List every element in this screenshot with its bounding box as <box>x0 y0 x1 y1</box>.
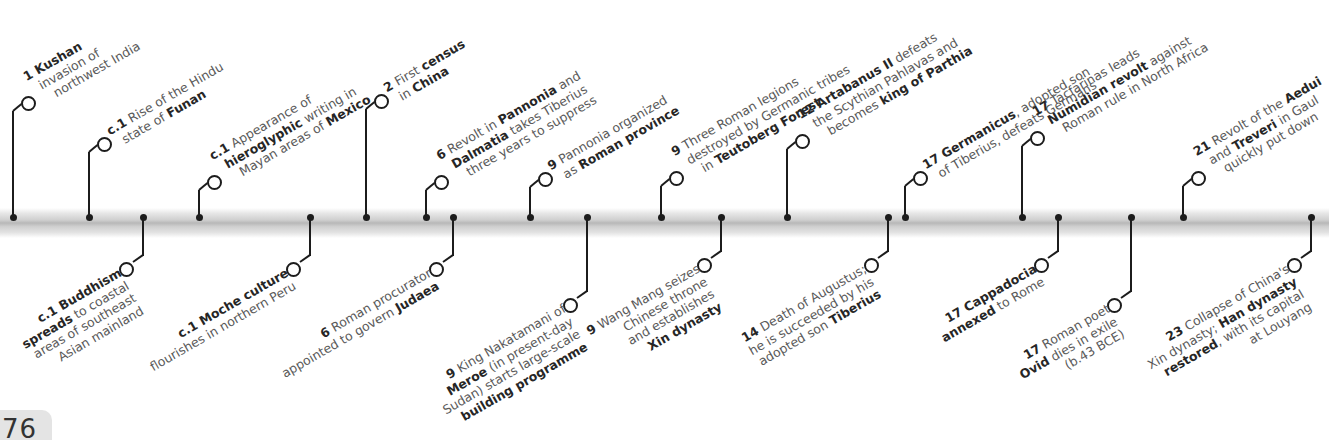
pin-stem <box>1130 217 1132 292</box>
event-label: c.1 Buddhismspreads to coastalareas of s… <box>12 266 146 377</box>
pin-stem <box>142 217 144 256</box>
event-label: 23 Collapse of China'sXin dynasty; Han d… <box>1138 262 1314 397</box>
event-label: 17 Roman poetOvid dies in exile(b.43 BCE… <box>1010 302 1127 395</box>
pin-kink <box>299 254 310 263</box>
pin-circle <box>795 134 810 149</box>
pin-circle <box>913 171 928 186</box>
pin-stem <box>12 111 14 217</box>
pin-stem <box>365 109 367 217</box>
pin-circle <box>538 172 553 187</box>
pin-stem <box>529 187 531 217</box>
pin-kink <box>1120 290 1131 299</box>
pin-stem <box>1310 217 1312 252</box>
pin-kink <box>710 250 721 259</box>
pin-stem <box>660 186 662 217</box>
event-label: 14 Death of Augustus;he is succeeded by … <box>739 262 884 371</box>
event-label: 17 Cappadociaannexed to Rome <box>932 262 1047 345</box>
event-label-line: hieroglyphic writing in <box>214 80 366 176</box>
page-number: 76 <box>2 414 37 444</box>
event-label: 6 Roman procuratorappointed to govern Ju… <box>272 266 441 381</box>
pin-stem <box>1182 186 1184 217</box>
pin-circle <box>207 175 222 190</box>
event-label: 9 Wang Mang seizesChinese throneand esta… <box>584 262 724 376</box>
pin-stem <box>786 149 788 217</box>
event-label-line: c.1 Moche culture <box>140 266 291 362</box>
pin-circle <box>374 94 389 109</box>
pin-stem <box>309 217 311 256</box>
pin-stem <box>720 217 722 252</box>
pin-circle <box>669 171 684 186</box>
pin-kink <box>442 254 453 263</box>
pin-stem <box>887 217 889 252</box>
pin-stem <box>904 186 906 217</box>
pin-stem <box>1021 146 1023 217</box>
event-label-line: appointed to govern Judaea <box>279 279 441 381</box>
event-label-line: 6 Roman procurator <box>272 266 434 368</box>
pin-circle <box>1191 171 1206 186</box>
event-label: c.1 Rise of the Hindustate of Funan <box>104 59 233 150</box>
pin-stem <box>88 152 90 217</box>
event-label: 1 Kushaninvasion ofnorthwest India <box>21 14 143 109</box>
pin-kink <box>576 290 587 299</box>
event-label: 9 King Nakatamani ofMeroe (in present-da… <box>426 302 590 430</box>
pin-stem <box>452 217 454 256</box>
pin-kink <box>132 254 143 263</box>
event-label: 2 First censusin China <box>381 37 475 108</box>
pin-circle <box>434 175 449 190</box>
pin-circle <box>1030 131 1045 146</box>
pin-stem <box>425 190 427 217</box>
pin-kink <box>1300 250 1311 259</box>
pin-kink <box>877 250 888 259</box>
event-label: 21 Revolt of the Aeduiand Treveri in Gau… <box>1191 74 1329 184</box>
pin-stem <box>198 190 200 217</box>
pin-stem <box>586 217 588 292</box>
pin-kink <box>1047 250 1058 259</box>
pin-stem <box>1057 217 1059 252</box>
pin-circle <box>21 96 36 111</box>
pin-circle <box>97 137 112 152</box>
